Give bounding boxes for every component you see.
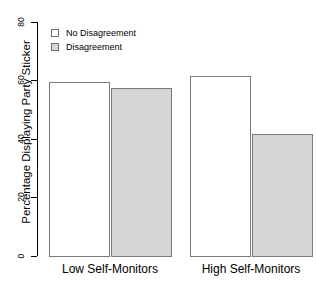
y-axis-tick-60: [31, 80, 37, 81]
legend-label-disagreement: Disagreement: [66, 43, 122, 52]
y-axis-tick-label-0: 0: [16, 249, 26, 263]
legend-entry-disagreement: Disagreement: [51, 41, 136, 53]
legend: No Disagreement Disagreement: [51, 27, 136, 55]
y-axis-line: [37, 22, 38, 256]
y-axis-tick-40: [31, 139, 37, 140]
y-axis-tick-20: [31, 197, 37, 198]
bar-high-disagreement: [252, 134, 313, 257]
legend-swatch-filled-icon: [51, 43, 59, 51]
y-axis-tick-0: [31, 256, 37, 257]
bar-high-no-disagreement: [190, 76, 251, 257]
bar-low-disagreement: [111, 88, 172, 257]
group-label-low-self-monitors: Low Self-Monitors: [40, 262, 180, 276]
bar-chart: Percentage Displaying Party Sticker 80 6…: [0, 0, 316, 286]
group-label-high-self-monitors: High Self-Monitors: [181, 262, 316, 276]
legend-label-no-disagreement: No Disagreement: [66, 29, 136, 38]
y-axis-tick-label-40: 40: [16, 132, 26, 146]
y-axis-tick-label-20: 20: [16, 190, 26, 204]
y-axis-tick-label-60: 60: [16, 73, 26, 87]
legend-swatch-open-icon: [51, 29, 59, 37]
bar-low-no-disagreement: [49, 82, 110, 257]
y-axis-tick-80: [31, 22, 37, 23]
y-axis-tick-label-80: 80: [16, 15, 26, 29]
legend-entry-no-disagreement: No Disagreement: [51, 27, 136, 39]
